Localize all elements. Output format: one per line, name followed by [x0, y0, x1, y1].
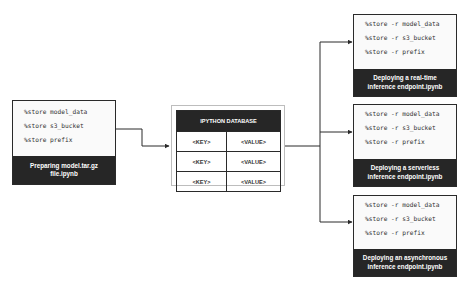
- code-line: %store s3_bucket: [24, 119, 115, 133]
- code-line: %store -r s3_bucket: [365, 31, 456, 45]
- key-cell: <KEY>: [177, 132, 227, 152]
- database-title: IPYTHON DATABASE: [177, 111, 281, 132]
- table-row: <KEY> <VALUE>: [177, 152, 281, 172]
- notebook-title-text: Deploying a real-time inference endpoint…: [362, 74, 448, 91]
- key-cell: <KEY>: [177, 152, 227, 172]
- key-cell: <KEY>: [177, 172, 227, 192]
- serverless-notebook: %store -r model_data %store -r s3_bucket…: [353, 104, 457, 187]
- notebook-title: Deploying an asynchronous inference endp…: [354, 249, 456, 276]
- notebook-title: Deploying a real-time inference endpoint…: [354, 69, 456, 96]
- code-line: %store model_data: [24, 105, 115, 119]
- code-line: %store prefix: [24, 133, 115, 147]
- code-line: %store -r model_data: [365, 17, 456, 31]
- notebook-title: Preparing model.tar.gz file.ipynb: [13, 156, 115, 184]
- notebook-title-text: Preparing model.tar.gz file.ipynb: [23, 162, 105, 179]
- arrow-source-to-database: [115, 129, 169, 146]
- code-line: %store -r prefix: [365, 135, 456, 149]
- ipython-database-table: IPYTHON DATABASE <KEY> <VALUE> <KEY> <VA…: [176, 110, 281, 192]
- value-cell: <VALUE>: [227, 172, 281, 192]
- table-row: <KEY> <VALUE>: [177, 172, 281, 192]
- value-cell: <VALUE>: [227, 132, 281, 152]
- notebook-title-text: Deploying an asynchronous inference endp…: [362, 254, 448, 271]
- code-line: %store -r prefix: [365, 226, 456, 240]
- code-line: %store -r prefix: [365, 45, 456, 59]
- notebook-title: Deploying a serverless inference endpoin…: [354, 159, 456, 186]
- code-line: %store -r model_data: [365, 107, 456, 121]
- code-line: %store -r model_data: [365, 198, 456, 212]
- value-cell: <VALUE>: [227, 152, 281, 172]
- async-notebook: %store -r model_data %store -r s3_bucket…: [353, 195, 457, 277]
- source-notebook: %store model_data %store s3_bucket %stor…: [12, 100, 116, 185]
- realtime-notebook: %store -r model_data %store -r s3_bucket…: [353, 14, 457, 97]
- code-line: %store -r s3_bucket: [365, 212, 456, 226]
- notebook-title-text: Deploying a serverless inference endpoin…: [362, 164, 448, 181]
- code-line: %store -r s3_bucket: [365, 121, 456, 135]
- table-row: <KEY> <VALUE>: [177, 132, 281, 152]
